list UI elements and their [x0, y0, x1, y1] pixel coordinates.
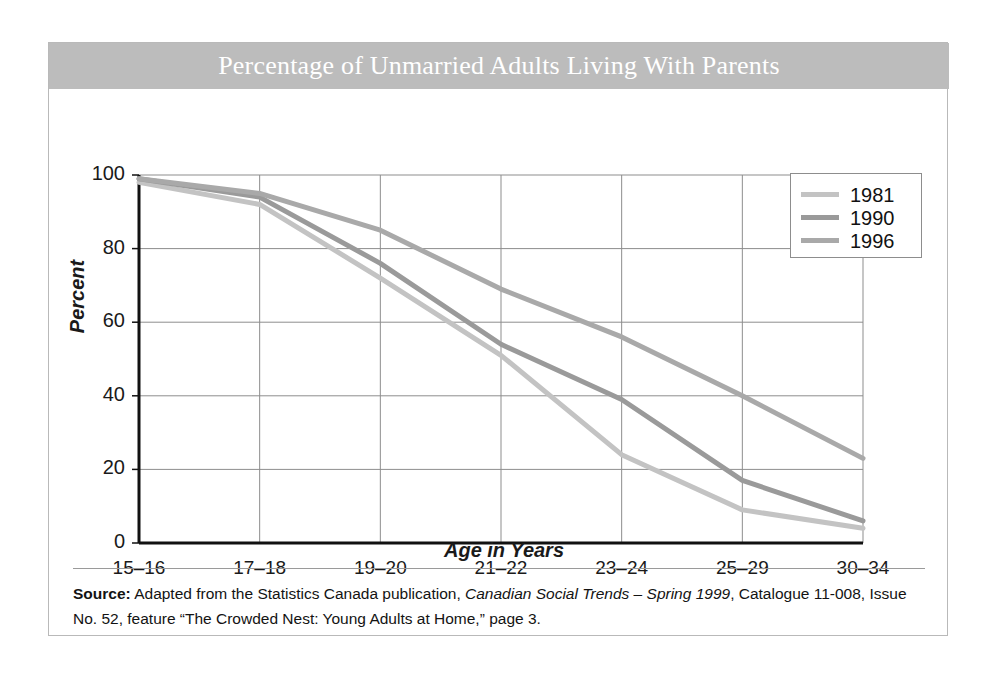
- source-note: Source: Adapted from the Statistics Cana…: [73, 581, 929, 631]
- legend-label: 1996: [850, 231, 895, 251]
- y-axis-title: Percent: [66, 237, 89, 357]
- legend-item-1981: 1981: [801, 183, 921, 206]
- chart-legend: 198119901996: [790, 173, 922, 258]
- legend-label: 1990: [850, 208, 895, 228]
- legend-item-1996: 1996: [801, 229, 921, 252]
- y-tick-label: 100: [79, 162, 125, 185]
- x-axis-title: Age in Years: [139, 539, 869, 562]
- legend-swatch-icon: [801, 238, 839, 243]
- chart-plot-area: 020406080100 15–1617–1819–2021–2223–2425…: [49, 89, 949, 589]
- legend-label: 1981: [850, 185, 895, 205]
- source-publication: Canadian Social Trends – Spring 1999: [465, 585, 730, 602]
- figure-frame: Percentage of Unmarried Adults Living Wi…: [48, 42, 948, 636]
- legend-item-1990: 1990: [801, 206, 921, 229]
- y-tick-label: 40: [79, 383, 125, 406]
- gridlines: [139, 175, 863, 543]
- y-tick-label: 0: [79, 530, 125, 553]
- line-chart-svg: [49, 89, 949, 589]
- axis-lines: [132, 175, 863, 543]
- y-tick-label: 20: [79, 456, 125, 479]
- page-title: Percentage of Unmarried Adults Living Wi…: [49, 43, 949, 89]
- legend-swatch-icon: [801, 192, 839, 197]
- source-divider: [73, 568, 925, 569]
- source-label: Source:: [73, 585, 131, 602]
- legend-swatch-icon: [801, 215, 839, 220]
- title-band: Percentage of Unmarried Adults Living Wi…: [49, 43, 949, 89]
- source-text-1: Adapted from the Statistics Canada publi…: [131, 585, 465, 602]
